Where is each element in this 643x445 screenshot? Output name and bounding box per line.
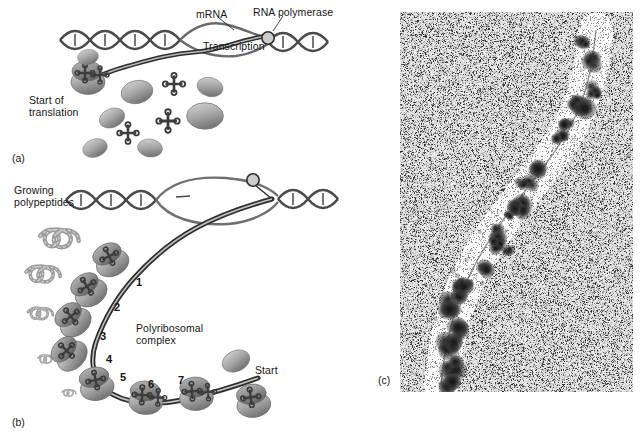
- ribosome-number-4: 4: [106, 353, 112, 365]
- panel-label-a: (a): [12, 152, 25, 164]
- ribosome-number-6: 6: [148, 378, 154, 390]
- ribosome-translating-a: [71, 61, 109, 95]
- growing-polypeptides-label-line1: Growing: [14, 184, 54, 197]
- polyribosomal-complex-label-line2: complex: [136, 334, 176, 347]
- start-of-translation-label-line1: Start of: [29, 94, 64, 107]
- dna-double-helix-a-right: [268, 33, 328, 51]
- ribosome-number-2: 2: [114, 301, 120, 313]
- start-label: Start: [255, 364, 278, 377]
- start-of-translation-label-line2: translation: [29, 106, 79, 119]
- rna-polymerase-label: RNA polymerase: [253, 6, 333, 19]
- ribosome-number-7: 7: [178, 374, 184, 386]
- ribosome-number-5: 5: [120, 371, 126, 383]
- mrna-label: mRNA: [196, 8, 227, 21]
- ribosome-number-3: 3: [100, 330, 106, 342]
- electron-micrograph: [400, 12, 633, 392]
- growing-polypeptides-label-line2: polypeptides: [14, 196, 74, 209]
- dna-double-helix-b-right: [278, 190, 338, 208]
- micrograph-canvas: [400, 12, 633, 392]
- figure-root: mRNA RNA polymerase Transcription Start …: [0, 0, 643, 445]
- dna-double-helix-b-left: [66, 191, 156, 209]
- panel-a-graphics: [60, 16, 328, 160]
- panel-label-b: (b): [12, 416, 25, 428]
- panel-label-c: (c): [378, 374, 390, 386]
- rna-polymerase-marker-b: [247, 174, 272, 199]
- ribosome-5: [76, 364, 116, 404]
- ribosome-number-1: 1: [136, 276, 142, 288]
- transcription-label: Transcription: [203, 40, 265, 53]
- dna-double-helix-a-left: [60, 31, 180, 49]
- polyribosomal-complex-label-line1: Polyribosomal: [136, 322, 203, 335]
